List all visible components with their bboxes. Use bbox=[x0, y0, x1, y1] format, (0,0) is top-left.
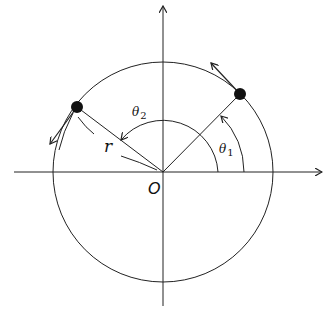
diagram-canvas: θ2 θ1 r O bbox=[0, 0, 333, 309]
particle-2 bbox=[71, 101, 83, 113]
theta2-label: θ2 bbox=[132, 105, 147, 121]
radius-line-1 bbox=[163, 94, 240, 172]
particle-1 bbox=[234, 88, 246, 100]
velocity-arrow-1 bbox=[211, 63, 240, 94]
origin-label: O bbox=[148, 179, 161, 198]
radius-line-2 bbox=[77, 107, 163, 172]
theta2-arc bbox=[121, 120, 218, 172]
radius-label: r bbox=[104, 136, 113, 156]
theta1-label: θ1 bbox=[219, 142, 234, 158]
velocity-arrow-2 bbox=[50, 107, 77, 144]
r-dimension-mark-upper bbox=[78, 117, 94, 134]
